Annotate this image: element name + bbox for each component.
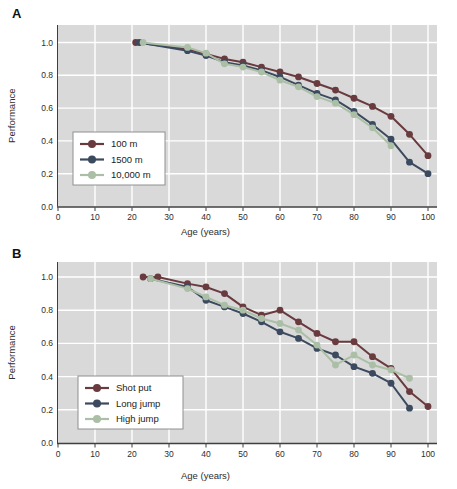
data-point-marker	[258, 315, 265, 322]
x-tick-label: 70	[312, 449, 322, 459]
data-point-marker	[295, 335, 302, 342]
x-tick-label: 20	[127, 212, 137, 222]
data-point-marker	[388, 142, 395, 149]
x-tick-label: 30	[164, 212, 174, 222]
data-point-marker	[295, 74, 302, 81]
data-point-marker	[221, 60, 228, 67]
x-tick-label: 80	[349, 449, 359, 459]
y-tick-label: 0.2	[41, 169, 53, 179]
x-tick-label: 10	[90, 449, 100, 459]
y-tick-label: 0.2	[41, 405, 53, 415]
y-tick-label: 0.6	[41, 338, 53, 348]
legend-marker-dot	[93, 384, 101, 392]
y-tick-label: 1.0	[41, 38, 53, 48]
x-tick-label: 90	[386, 212, 396, 222]
x-tick-label: 100	[421, 449, 435, 459]
data-point-marker	[369, 362, 376, 369]
x-tick-label: 60	[275, 212, 285, 222]
data-point-marker	[369, 103, 376, 110]
data-point-marker	[406, 405, 413, 412]
data-point-marker	[332, 352, 339, 359]
data-point-marker	[369, 370, 376, 377]
legend-item-label: Shot put	[116, 382, 152, 393]
data-point-marker	[240, 64, 247, 71]
y-tick-label: 0.0	[41, 202, 53, 212]
data-point-marker	[314, 80, 321, 87]
x-tick-label: 40	[201, 449, 211, 459]
data-point-marker	[203, 50, 210, 57]
y-axis-title: Performance	[6, 325, 17, 379]
data-point-marker	[351, 95, 358, 102]
legend-marker-dot	[93, 415, 101, 423]
data-point-marker	[369, 353, 376, 360]
x-tick-label: 50	[238, 449, 248, 459]
data-point-marker	[277, 328, 284, 335]
x-tick-label: 50	[238, 212, 248, 222]
x-tick-label: 100	[421, 212, 435, 222]
data-point-marker	[147, 275, 154, 282]
data-point-marker	[425, 152, 432, 159]
data-point-marker	[203, 294, 210, 301]
data-point-marker	[388, 380, 395, 387]
x-tick-label: 10	[90, 212, 100, 222]
data-point-marker	[425, 170, 432, 177]
legend-item-label: 100 m	[111, 138, 137, 149]
panel-label: A	[12, 6, 22, 21]
data-point-marker	[388, 113, 395, 120]
y-tick-label: 0.6	[41, 103, 53, 113]
x-tick-label: 0	[56, 449, 61, 459]
data-point-marker	[314, 342, 321, 349]
data-point-marker	[351, 111, 358, 118]
data-point-marker	[314, 330, 321, 337]
data-point-marker	[295, 83, 302, 90]
data-point-marker	[332, 87, 339, 94]
data-point-marker	[332, 100, 339, 107]
y-tick-label: 0.8	[41, 70, 53, 80]
data-point-marker	[369, 124, 376, 131]
panel-b-chart: B01020304050607080901000.00.20.40.60.81.…	[0, 244, 457, 489]
data-point-marker	[406, 388, 413, 395]
panel-a-chart: A01020304050607080901000.00.20.40.60.81.…	[0, 0, 457, 244]
data-point-marker	[332, 338, 339, 345]
legend-marker-dot	[93, 400, 101, 408]
y-tick-label: 0.4	[41, 372, 53, 382]
data-point-marker	[388, 367, 395, 374]
x-tick-label: 20	[127, 449, 137, 459]
data-point-marker	[406, 375, 413, 382]
panel-label: B	[12, 246, 21, 261]
data-point-marker	[295, 327, 302, 334]
legend-marker-dot	[88, 140, 96, 148]
figure-aging-performance: A01020304050607080901000.00.20.40.60.81.…	[0, 0, 457, 489]
y-tick-label: 1.0	[41, 272, 53, 282]
x-tick-label: 70	[312, 212, 322, 222]
y-tick-label: 0.0	[41, 438, 53, 448]
legend-item-label: 1500 m	[111, 154, 143, 165]
x-tick-label: 80	[349, 212, 359, 222]
data-point-marker	[406, 131, 413, 138]
x-tick-label: 40	[201, 212, 211, 222]
data-point-marker	[203, 284, 210, 291]
data-point-marker	[277, 77, 284, 84]
x-tick-label: 30	[164, 449, 174, 459]
data-point-marker	[277, 320, 284, 327]
data-point-marker	[221, 290, 228, 297]
legend-item-label: 10,000 m	[111, 169, 151, 180]
x-tick-label: 60	[275, 449, 285, 459]
legend-marker-dot	[88, 171, 96, 179]
x-axis-title: Age (years)	[181, 226, 230, 237]
data-point-marker	[221, 302, 228, 309]
data-point-marker	[351, 338, 358, 345]
data-point-marker	[140, 39, 147, 46]
x-axis-title: Age (years)	[181, 470, 230, 481]
data-point-marker	[351, 363, 358, 370]
data-point-marker	[332, 362, 339, 369]
legend-item-label: Long jump	[116, 398, 160, 409]
x-tick-label: 0	[56, 212, 61, 222]
data-point-marker	[277, 307, 284, 314]
data-point-marker	[258, 69, 265, 76]
y-tick-label: 0.8	[41, 305, 53, 315]
x-tick-label: 90	[386, 449, 396, 459]
y-tick-label: 0.4	[41, 136, 53, 146]
data-point-marker	[240, 307, 247, 314]
y-axis-title: Performance	[6, 89, 17, 143]
